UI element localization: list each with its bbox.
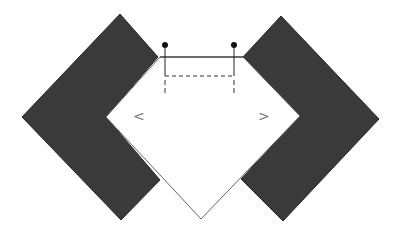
diagram-canvas: < >	[0, 0, 398, 235]
left-pin-dot	[162, 42, 168, 48]
right-pin-dot	[231, 42, 237, 48]
right-chevron-icon: >	[258, 108, 270, 124]
left-chevron-icon: <	[133, 108, 145, 124]
